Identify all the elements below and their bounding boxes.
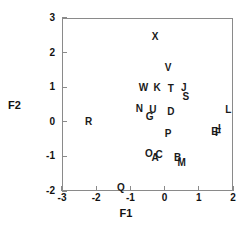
y-tick-mark — [62, 121, 67, 122]
data-point-label: P — [165, 129, 172, 139]
data-point-label: G — [146, 112, 154, 122]
data-point-label: W — [139, 83, 148, 93]
y-tick-label: 1 — [33, 82, 55, 92]
data-point-label: A — [151, 153, 158, 163]
y-tick-mark — [62, 52, 67, 53]
scatter-plot-figure: -2-10123 -3-2-1012 XVWKTJSNUDLGRIEFPOCAB… — [0, 0, 252, 226]
x-tick-label: 2 — [222, 193, 244, 203]
data-point-label: F — [215, 128, 221, 138]
y-tick-label: 2 — [33, 48, 55, 58]
y-tick-label: 0 — [33, 117, 55, 127]
plot-area — [62, 18, 233, 191]
data-point-label: R — [85, 117, 92, 127]
x-axis-label: F1 — [0, 207, 252, 219]
data-point-label: V — [165, 63, 172, 73]
x-tick-label: -3 — [51, 193, 73, 203]
y-tick-mark — [62, 87, 67, 88]
x-tick-label: 1 — [188, 193, 210, 203]
data-point-label: X — [152, 32, 159, 42]
y-tick-mark — [62, 156, 67, 157]
data-point-label: K — [153, 83, 160, 93]
data-point-label: S — [182, 92, 189, 102]
data-point-label: T — [168, 84, 174, 94]
x-tick-mark — [198, 186, 199, 191]
y-tick-label: -1 — [33, 151, 55, 161]
data-point-label: Q — [117, 183, 125, 193]
data-point-label: N — [136, 104, 143, 114]
y-axis-label: F2 — [8, 99, 21, 111]
data-point-label: D — [167, 107, 174, 117]
x-tick-label: -2 — [85, 193, 107, 203]
x-tick-mark — [61, 186, 62, 191]
x-tick-mark — [96, 186, 97, 191]
y-tick-mark — [62, 17, 67, 18]
data-point-label: M — [178, 158, 186, 168]
x-tick-label: 0 — [154, 193, 176, 203]
x-tick-mark — [130, 186, 131, 191]
data-point-label: L — [225, 105, 231, 115]
x-tick-mark — [232, 186, 233, 191]
y-tick-label: 3 — [33, 13, 55, 23]
x-tick-mark — [164, 186, 165, 191]
x-tick-label: -1 — [119, 193, 141, 203]
